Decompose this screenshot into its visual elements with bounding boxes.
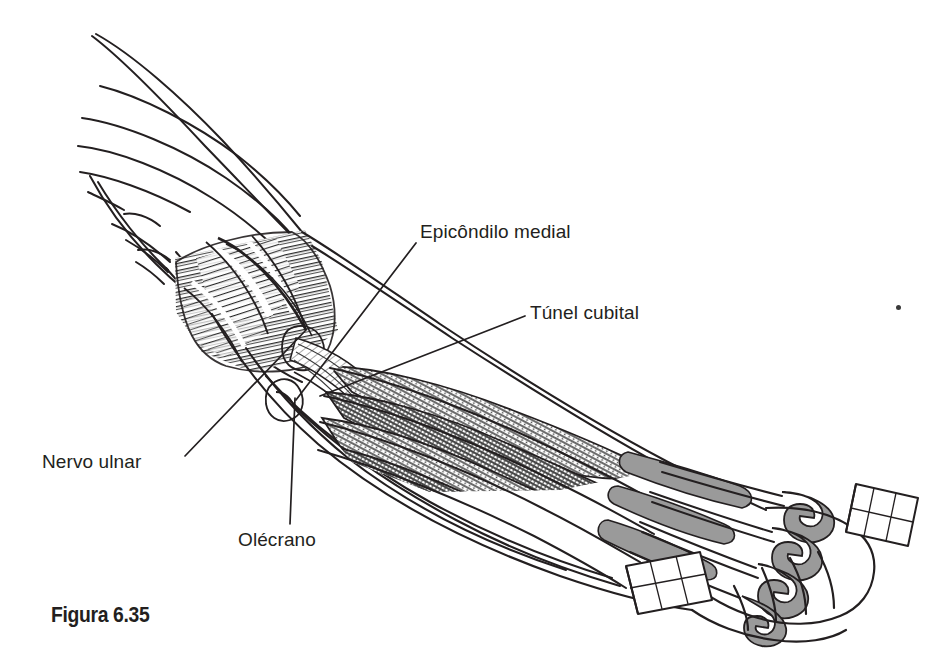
forearm-muscle-bellies — [318, 366, 666, 588]
olecranon-bony-prominence — [266, 379, 303, 421]
label-tunel-cubital: Túnel cubital — [530, 303, 639, 322]
leader-olecrano — [290, 398, 295, 524]
label-nervo-ulnar: Nervo ulnar — [42, 452, 141, 471]
arm-fold-1 — [100, 86, 300, 216]
page-speck-artifact — [896, 305, 901, 310]
wrist-tendon-group — [598, 452, 918, 646]
arm-fold-4 — [80, 172, 190, 212]
label-epicondilo-medial: Epicôndilo medial — [420, 222, 571, 241]
figure-caption: Figura 6.35 — [51, 602, 149, 628]
upper-arm-superior-contour-2 — [96, 34, 302, 232]
anatomy-illustration — [0, 0, 946, 668]
label-olecrano: Olécrano — [238, 530, 316, 549]
arm-crease-d — [124, 214, 160, 227]
figure-page: Epicôndilo medial Túnel cubital Nervo ul… — [0, 0, 946, 668]
